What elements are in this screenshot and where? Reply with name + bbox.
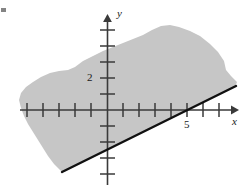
y-axis-arrow-icon	[103, 14, 112, 22]
x-axis-label: x	[232, 116, 237, 127]
x-axis-arrow-icon	[231, 106, 239, 115]
scan-artifact-mark	[1, 8, 6, 12]
y-axis-tick-label-2: 2	[87, 72, 93, 83]
x-axis-tick-label-5: 5	[184, 119, 190, 130]
graph-figure: y x 2 5	[0, 0, 242, 189]
coordinate-plane-graph	[0, 0, 242, 189]
shaded-region	[19, 25, 237, 172]
y-axis-label: y	[117, 8, 122, 19]
